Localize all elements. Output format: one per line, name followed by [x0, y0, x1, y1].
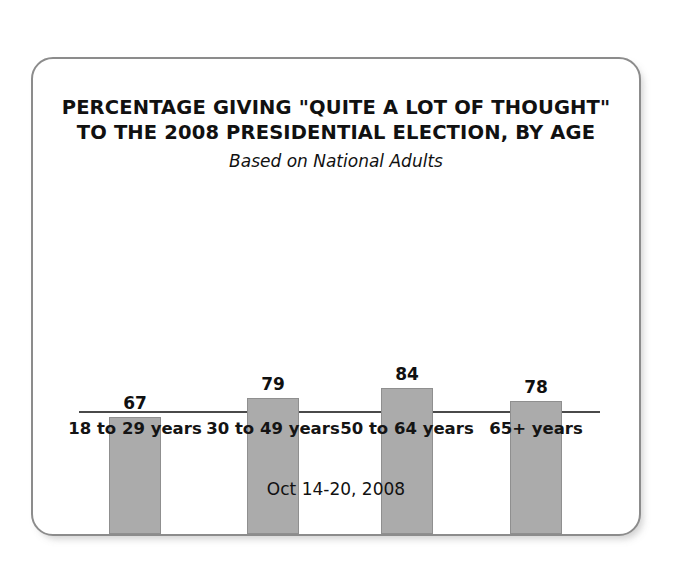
chart-footer-date: Oct 14-20, 2008 [33, 479, 639, 499]
category-label-3: 65+ years [481, 419, 591, 438]
bar-value-label-0: 67 [95, 394, 175, 413]
plot-area: 67 79 84 78 18 to 29 years 30 to 49 year… [33, 59, 639, 534]
chart-card: PERCENTAGE GIVING "QUITE A LOT OF THOUGH… [31, 57, 641, 536]
category-label-row: 18 to 29 years 30 to 49 years 50 to 64 y… [33, 419, 639, 449]
category-label-2: 50 to 64 years [337, 419, 477, 438]
bar-value-label-3: 78 [496, 378, 576, 397]
bar-rect-2[interactable] [381, 388, 433, 534]
category-label-1: 30 to 49 years [203, 419, 343, 438]
category-label-0: 18 to 29 years [65, 419, 205, 438]
bar-value-label-2: 84 [367, 365, 447, 384]
bar-value-label-1: 79 [233, 375, 313, 394]
